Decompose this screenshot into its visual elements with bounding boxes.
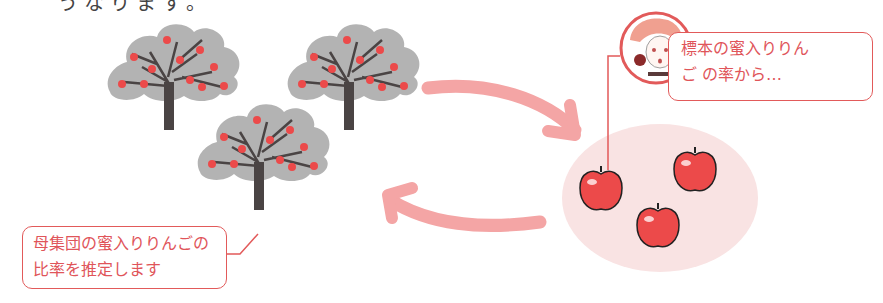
sample-callout: 標本の蜜入りりん ご の率から…	[668, 32, 873, 101]
arrow-backward-icon	[388, 188, 540, 226]
population-trees	[108, 24, 420, 210]
arrow-forward-icon	[428, 86, 575, 135]
population-callout-leader	[227, 234, 258, 254]
population-callout-line1: 母集団の蜜入りりんごの	[33, 231, 226, 257]
population-callout: 母集団の蜜入りりんごの 比率を推定します	[22, 226, 227, 289]
sample-callout-line2: ご の率から…	[681, 62, 872, 88]
tree-icon	[198, 104, 330, 210]
tree-icon	[108, 24, 240, 130]
sample-callout-line1: 標本の蜜入りりん	[681, 36, 872, 62]
population-callout-line2: 比率を推定します	[33, 257, 226, 283]
